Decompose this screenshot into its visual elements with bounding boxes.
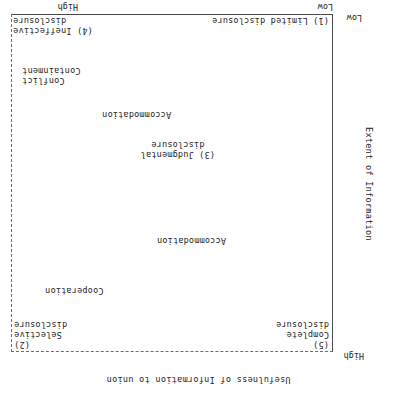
concept-label-conflict-containment: Conflict Containment: [22, 66, 81, 86]
top-frame-dashed-line: [11, 351, 333, 352]
quadrant-label-judgmental-disclosure: (3) Judgmental disclosure: [141, 140, 215, 160]
y-axis-line: [332, 14, 333, 352]
quadrant-label-selective-disclosure: (2) Selective disclosure: [14, 320, 67, 350]
right-frame-dashed-line: [11, 14, 12, 352]
y-axis-tick-low: Low: [347, 13, 362, 23]
y-axis-tick-high: High: [344, 351, 364, 361]
figure-canvas: (1) Limited disclosure (4) Ineffective d…: [0, 0, 397, 397]
quadrant-label-complete-disclosure: (5) Complete disclosure: [276, 320, 329, 350]
concept-label-accommodation-upper: Accommodation: [157, 236, 226, 246]
concept-label-cooperation: Cooperation: [45, 286, 104, 296]
quadrant-label-ineffective-disclosure: (4) Ineffective disclosure: [13, 16, 93, 36]
rotated-figure-container: (1) Limited disclosure (4) Ineffective d…: [0, 0, 397, 397]
x-axis-line: [11, 14, 333, 15]
y-axis-title: Extent of Information: [364, 84, 374, 284]
quadrant-label-limited-disclosure: (1) Limited disclosure: [212, 16, 329, 26]
x-axis-title: Usefulness of Information to union: [0, 375, 397, 385]
plot-area: (1) Limited disclosure (4) Ineffective d…: [11, 14, 333, 352]
x-axis-tick-high: High: [58, 2, 78, 12]
x-axis-tick-low: Low: [318, 2, 333, 12]
concept-label-accommodation-lower: Accommodation: [102, 110, 171, 120]
